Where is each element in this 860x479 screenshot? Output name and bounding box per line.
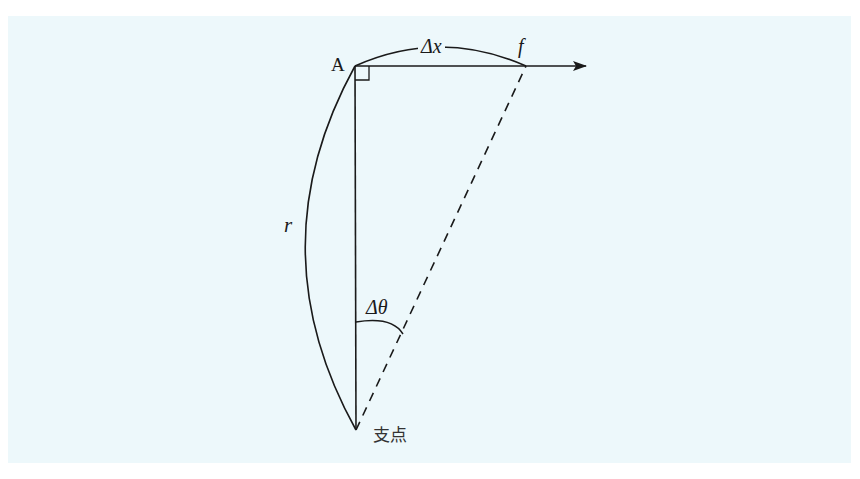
right-angle-marker [355, 66, 369, 80]
label-point-a: A [331, 55, 345, 74]
label-pivot: 支点 [373, 427, 407, 444]
label-force-f: f [518, 36, 524, 56]
dashed-radius-line [356, 66, 526, 430]
vertical-radius-line [355, 66, 356, 430]
arc-radius [305, 66, 356, 430]
label-delta-x: Δx [418, 36, 445, 56]
label-delta-theta: Δθ [366, 297, 388, 317]
pendulum-diagram [0, 0, 860, 479]
angle-arc [356, 321, 403, 335]
label-radius-r: r [284, 215, 292, 236]
